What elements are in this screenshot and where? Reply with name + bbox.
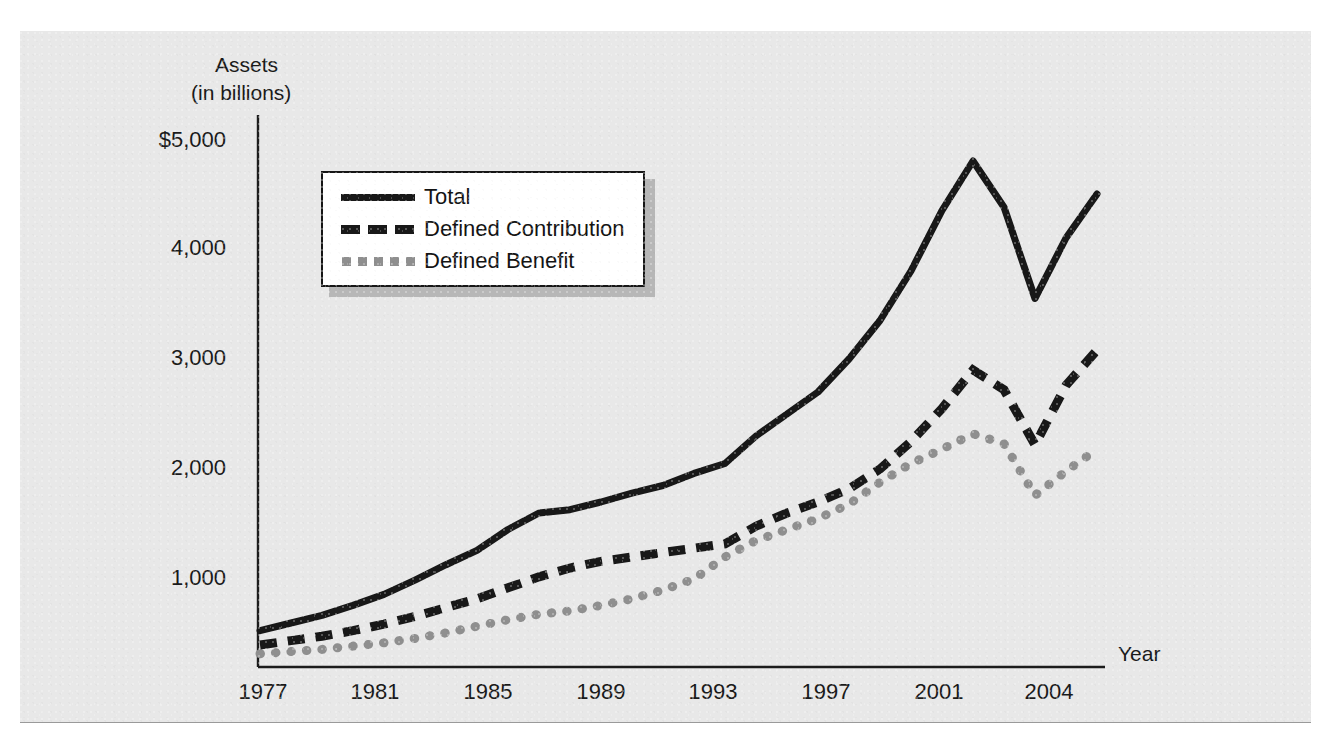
x-tick-label-1993: 1993	[673, 679, 753, 705]
x-tick-label-1981: 1981	[335, 679, 415, 705]
y-tick-label-2000: 2,000	[130, 455, 226, 481]
legend-item-defined-benefit: Defined Benefit	[341, 245, 574, 277]
y-axis-title-line2: (in billions)	[191, 81, 291, 105]
y-tick-label-4000: 4,000	[130, 235, 226, 261]
x-tick-label-1997: 1997	[786, 679, 866, 705]
y-axis-title-line1: Assets	[215, 53, 278, 77]
x-tick-label-2001: 2001	[899, 679, 979, 705]
legend-item-total: Total	[341, 181, 470, 213]
legend-label-defined-contribution: Defined Contribution	[424, 216, 625, 242]
legend-swatch-solid-line-icon	[341, 188, 415, 206]
legend-item-defined-contribution: Defined Contribution	[341, 213, 625, 245]
x-axis-title: Year	[1118, 642, 1160, 666]
y-tick-label-3000: 3,000	[130, 345, 226, 371]
legend-swatch-dotted-line-icon	[341, 252, 415, 270]
bottom-divider	[20, 722, 1311, 723]
figure-page: Assets (in billions) Year $5,000 4,000 3…	[0, 0, 1323, 749]
chart-figure-panel: Assets (in billions) Year $5,000 4,000 3…	[20, 31, 1311, 722]
x-tick-label-1977: 1977	[223, 679, 303, 705]
legend-swatch-dashed-line-icon	[341, 220, 415, 238]
x-tick-label-1985: 1985	[448, 679, 528, 705]
top-bleed-text	[28, 0, 388, 10]
y-tick-label-5000: $5,000	[130, 127, 226, 153]
legend-label-defined-benefit: Defined Benefit	[424, 248, 574, 274]
chart-legend: Total Defined Contribution Defined Benef…	[321, 171, 645, 287]
y-tick-label-1000: 1,000	[130, 565, 226, 591]
x-tick-label-2004: 2004	[1009, 679, 1089, 705]
legend-label-total: Total	[424, 184, 470, 210]
series-line-defined-contribution	[260, 350, 1097, 645]
x-tick-label-1989: 1989	[561, 679, 641, 705]
